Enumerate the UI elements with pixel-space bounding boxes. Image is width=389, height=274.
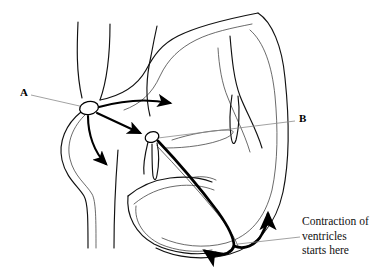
aortic-arch-outline	[100, 13, 258, 100]
caption-line-1: Contraction of	[302, 214, 369, 229]
impulse-sa-to-right-atrium	[99, 101, 170, 107]
right-atrium-upper-inner	[218, 48, 250, 152]
impulse-sa-to-left-down	[88, 116, 106, 164]
leader-line-b	[158, 121, 295, 138]
caption-line-3: starts here	[302, 243, 369, 258]
left-ventricle-inflow-wall-inner	[134, 185, 214, 204]
heart-conduction-figure: A B Contraction of ventricles starts her…	[0, 0, 389, 274]
superior-vena-cava-outline	[77, 22, 82, 98]
av-valve-leaflet-left	[152, 143, 159, 180]
impulse-sa-to-av-node	[97, 113, 140, 133]
leader-line-a	[31, 95, 84, 107]
vena-cava-right-wall	[100, 24, 110, 100]
pulmonary-trunk-left	[147, 26, 157, 116]
inferior-vena-cava-outline	[114, 150, 118, 248]
impulse-bundle-of-his	[158, 141, 234, 246]
left-ventricle-apex-curve-inner	[136, 206, 212, 251]
caption-line-2: ventricles	[302, 229, 369, 244]
left-ventricle-apex-curve	[128, 196, 216, 254]
pectinate-muscle-fold	[230, 95, 239, 143]
interventricular-septum	[157, 146, 238, 246]
mitral-valve-cusp	[144, 142, 148, 174]
caption-contraction-of-ventricles: Contraction of ventricles starts here	[302, 214, 369, 258]
label-a: A	[20, 87, 28, 98]
label-b: B	[299, 113, 307, 124]
leader-line-caption	[238, 237, 300, 244]
left-atrium-lateral-wall	[61, 112, 88, 248]
right-atrium-upper-outline	[230, 36, 262, 148]
